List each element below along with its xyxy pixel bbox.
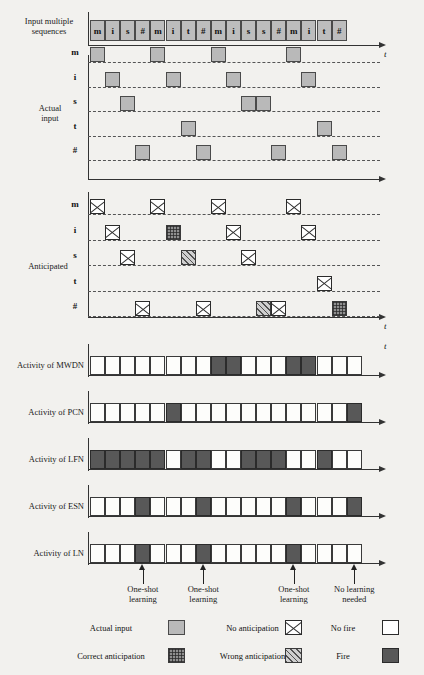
legend-swatch-no-anticipation — [285, 620, 302, 635]
activity-cell-mwdn-no-fire — [317, 356, 332, 375]
anticipated-block-no-anticipation — [196, 301, 211, 316]
actual-input-block — [211, 47, 226, 62]
activity-cell-ln-fire — [196, 544, 211, 563]
actual-input-baseline — [88, 160, 380, 161]
activity-axis-arrowhead-ln — [379, 560, 386, 566]
activity-axis-horizontal-mwdn — [88, 375, 380, 376]
activity-cell-ln-no-fire — [181, 544, 196, 563]
activity-cell-mwdn-no-fire — [150, 356, 165, 375]
activity-cell-pcn-no-fire — [135, 403, 150, 422]
sequence-cell: # — [196, 20, 211, 41]
activity-cell-mwdn-fire — [301, 356, 316, 375]
anticipated-row-label: i — [68, 225, 82, 235]
anticipated-block-no-anticipation — [271, 301, 286, 316]
anticipated-block-no-anticipation — [286, 199, 301, 214]
actual-input-row-label: s — [68, 96, 82, 106]
activity-cell-mwdn-fire — [286, 356, 301, 375]
legend-swatch-fire — [382, 648, 399, 663]
annotation-label-line2: learning — [262, 595, 326, 605]
activity-cell-esn-no-fire — [226, 497, 241, 516]
activity-label-esn: Activity of ESN — [2, 502, 84, 512]
activity-cell-esn-no-fire — [150, 497, 165, 516]
sequence-cell: m — [150, 20, 165, 41]
activity-label-mwdn: Activity of MWDN — [2, 361, 84, 371]
activity-cell-lfn-no-fire — [347, 450, 362, 469]
legend-label-correct-anticipation: Correct anticipation — [56, 651, 166, 661]
legend-swatch-no-fire — [382, 620, 399, 635]
annotation-arrow-shaft — [294, 570, 295, 584]
sequence-cell: t — [181, 20, 196, 41]
activity-cell-pcn-no-fire — [211, 403, 226, 422]
actual-input-block — [105, 72, 120, 87]
activity-cell-pcn-no-fire — [271, 403, 286, 422]
activity-cell-mwdn-no-fire — [90, 356, 105, 375]
anticipated-baseline — [88, 265, 380, 266]
legend-label-actual-input: Actual input — [56, 623, 166, 633]
activity-cell-mwdn-no-fire — [135, 356, 150, 375]
activity-axis-arrowhead-mwdn — [379, 372, 386, 378]
activity-cell-ln-no-fire — [166, 544, 181, 563]
actual-input-block — [196, 145, 211, 160]
actual-input-block — [226, 72, 241, 87]
activity-cell-pcn-no-fire — [286, 403, 301, 422]
sequence-cell: s — [241, 20, 256, 41]
activity-cell-pcn-no-fire — [317, 403, 332, 422]
actual-input-block — [256, 96, 271, 111]
activity-cell-pcn-no-fire — [256, 403, 271, 422]
sequence-cell: m — [90, 20, 105, 41]
anticipated-block-no-anticipation — [120, 250, 135, 265]
activity-axis-horizontal-pcn — [88, 422, 380, 423]
activity-axis-arrowhead-pcn — [379, 419, 386, 425]
actual-input-axis-arrowhead — [379, 176, 386, 182]
sequence-cell: i — [226, 20, 241, 41]
activity-cell-esn-no-fire — [90, 497, 105, 516]
actual-input-block — [241, 96, 256, 111]
activity-time-label: t — [384, 341, 387, 351]
anticipated-row-label: t — [68, 276, 82, 286]
activity-cell-ln-no-fire — [120, 544, 135, 563]
activity-cell-pcn-no-fire — [301, 403, 316, 422]
anticipated-row-label: m — [68, 199, 82, 209]
actual-input-block — [90, 47, 105, 62]
activity-cell-lfn-fire — [256, 450, 271, 469]
activity-cell-esn-no-fire — [241, 497, 256, 516]
activity-axis-horizontal-esn — [88, 516, 380, 517]
annotation-arrow-shaft — [354, 570, 355, 584]
activity-cell-ln-no-fire — [271, 544, 286, 563]
activity-cell-ln-no-fire — [256, 544, 271, 563]
activity-cell-pcn-no-fire — [105, 403, 120, 422]
actual-input-row-label: # — [68, 145, 82, 155]
activity-cell-esn-fire — [347, 497, 362, 516]
activity-cell-ln-no-fire — [332, 544, 347, 563]
activity-cell-mwdn-no-fire — [347, 356, 362, 375]
activity-cell-pcn-no-fire — [241, 403, 256, 422]
sequence-cell: i — [301, 20, 316, 41]
activity-cell-mwdn-no-fire — [120, 356, 135, 375]
activity-cell-esn-no-fire — [211, 497, 226, 516]
activity-cell-lfn-no-fire — [166, 450, 181, 469]
sequence-cell: i — [166, 20, 181, 41]
anticipated-baseline — [88, 240, 380, 241]
anticipated-block-no-anticipation — [211, 199, 226, 214]
activity-label-lfn: Activity of LFN — [2, 455, 84, 465]
actual-input-block — [150, 47, 165, 62]
activity-cell-lfn-fire — [181, 450, 196, 469]
activity-cell-esn-fire — [286, 497, 301, 516]
activity-axis-horizontal-ln — [88, 563, 380, 564]
anticipated-block-no-anticipation — [105, 225, 120, 240]
actual-input-block — [332, 145, 347, 160]
actual-input-block — [271, 145, 286, 160]
sequence-time-label: t — [384, 49, 387, 59]
activity-cell-esn-no-fire — [271, 497, 286, 516]
activity-cell-esn-no-fire — [181, 497, 196, 516]
activity-cell-ln-no-fire — [347, 544, 362, 563]
annotation-label-line2: learning — [171, 595, 235, 605]
activity-cell-ln-no-fire — [211, 544, 226, 563]
activity-cell-pcn-fire — [166, 403, 181, 422]
input-sequence-label-line2: sequences — [6, 27, 92, 37]
annotation-label-line2: learning — [111, 595, 175, 605]
anticipated-block-no-anticipation — [317, 276, 332, 291]
activity-cell-pcn-no-fire — [226, 403, 241, 422]
activity-cell-ln-no-fire — [150, 544, 165, 563]
anticipated-block-correct-anticipation — [332, 301, 347, 316]
